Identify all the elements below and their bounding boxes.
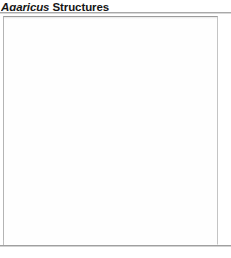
bottom-divider-shadow (0, 246, 231, 247)
page-title: Agaricus Structures (1, 0, 225, 11)
title-genus-name: Agaricus (1, 1, 49, 11)
title-text: Agaricus Structures (1, 1, 109, 11)
title-subject: Structures (49, 1, 109, 11)
title-divider-shadow (0, 13, 231, 14)
figure-placeholder-area (4, 17, 217, 244)
figure-placeholder-box (3, 16, 218, 245)
figure-top-shading (4, 17, 217, 19)
figure-page: Agaricus Structures (0, 0, 231, 258)
